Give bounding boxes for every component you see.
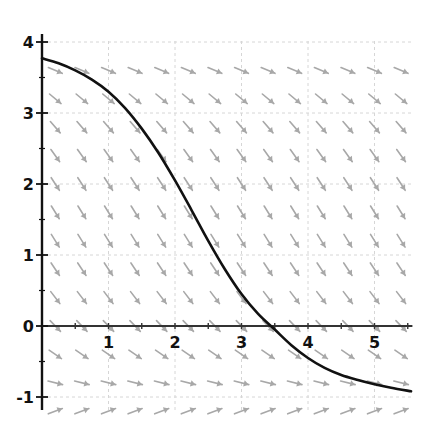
y-tick-label: 3 [23,104,34,123]
arrowhead-icon [270,380,276,386]
slope-field-arrows [48,67,408,413]
arrowhead-icon [296,380,302,386]
x-tick-label: 1 [103,333,114,352]
arrowhead-icon [84,380,90,386]
arrowhead-icon [163,380,169,386]
arrowhead-icon [350,380,356,386]
y-tick-label: 2 [23,175,34,194]
grid-lines [42,41,412,410]
arrowhead-icon [243,380,249,386]
x-tick-label: 4 [302,333,313,352]
arrowhead-icon [217,380,223,386]
x-tick-label: 2 [169,333,180,352]
arrowhead-icon [137,380,143,386]
arrowhead-icon [110,380,116,386]
y-tick-label: 0 [23,317,34,336]
arrowhead-icon [323,380,329,386]
slope-field-chart: 12345-101234 [0,0,439,428]
x-tick-label: 5 [369,333,380,352]
arrowhead-icon [403,380,409,386]
arrowhead-icon [190,380,196,386]
y-tick-label: 1 [23,246,34,265]
y-tick-label: -1 [16,388,34,407]
solution-curve [42,58,411,391]
arrowhead-icon [57,380,63,386]
axes [36,34,412,410]
y-tick-label: 4 [23,33,34,52]
x-tick-label: 3 [236,333,247,352]
